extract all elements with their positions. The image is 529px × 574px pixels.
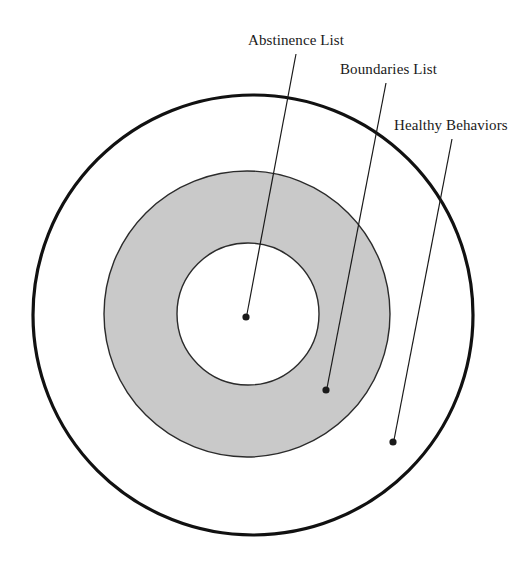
leader-dot-boundaries <box>322 386 329 393</box>
ring-inner-abstinence-list[interactable] <box>177 243 319 385</box>
label-boundaries-list: Boundaries List <box>340 61 438 77</box>
leader-dot-abstinence <box>242 313 249 320</box>
diagram-canvas: Abstinence List Boundaries List Healthy … <box>0 0 529 574</box>
label-abstinence-list: Abstinence List <box>248 32 345 48</box>
concentric-circles-diagram: Abstinence List Boundaries List Healthy … <box>0 0 529 574</box>
leader-dot-healthy <box>389 438 396 445</box>
label-healthy-behaviors: Healthy Behaviors <box>394 117 508 133</box>
